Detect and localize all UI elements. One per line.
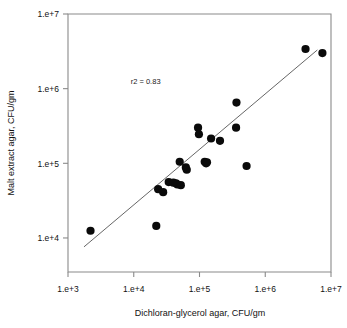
data-points-group [86, 45, 326, 235]
data-point [207, 134, 215, 142]
y-tick-label-1: 1.e+5 [37, 159, 59, 169]
y-tick-label-2: 1.e+6 [37, 84, 59, 94]
data-point [195, 130, 203, 138]
figure-container: 1.e+31.e+41.e+51.e+61.e+7 1.e+41.e+51.e+… [0, 0, 347, 328]
x-tick-label-2: 1.e+5 [189, 284, 211, 294]
regression-line-group [84, 50, 317, 247]
regression-line [84, 50, 317, 247]
x-tick-label-0: 1.e+3 [57, 284, 79, 294]
y-tick-label-3: 1.e+7 [37, 9, 59, 19]
data-point [176, 158, 184, 166]
x-axis-title: Dichloran-glycerol agar, CFU/gm [135, 308, 266, 318]
data-point [301, 45, 309, 53]
data-point [86, 227, 94, 235]
axis-frame [68, 14, 331, 272]
data-point [216, 137, 224, 145]
data-point [318, 49, 326, 57]
scatter-plot: 1.e+31.e+41.e+51.e+61.e+7 1.e+41.e+51.e+… [0, 0, 347, 328]
y-axis-tick-labels: 1.e+41.e+51.e+61.e+7 [37, 9, 59, 243]
data-point [183, 166, 191, 174]
data-point [152, 222, 160, 230]
x-tick-label-3: 1.e+6 [254, 284, 276, 294]
data-point [177, 181, 185, 189]
y-axis-tick-marks [63, 14, 68, 238]
data-point [232, 124, 240, 132]
x-tick-label-1: 1.e+4 [123, 284, 145, 294]
x-axis-tick-labels: 1.e+31.e+41.e+51.e+61.e+7 [57, 284, 342, 294]
x-axis-tick-marks [68, 272, 331, 277]
annotations-group: r2 = 0.83 [131, 77, 161, 86]
data-point [242, 162, 250, 170]
x-tick-label-4: 1.e+7 [320, 284, 342, 294]
r-squared-annotation: r2 = 0.83 [131, 77, 161, 86]
plot-frame [68, 14, 331, 272]
data-point [203, 158, 211, 166]
y-axis-title: Malt extract agar, CFU/gm [6, 90, 16, 195]
data-point [232, 99, 240, 107]
y-tick-label-0: 1.e+4 [37, 233, 59, 243]
data-point [159, 188, 167, 196]
